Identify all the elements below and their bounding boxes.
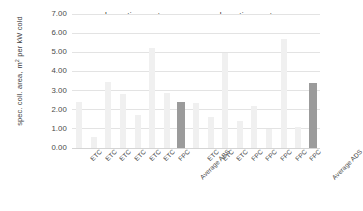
bar [208, 117, 214, 148]
x-axis-tick-label: ETC [235, 148, 249, 162]
bar-slot [247, 14, 262, 148]
x-axis-tick-label: FPC [308, 148, 322, 162]
bar-slot [291, 14, 306, 148]
x-axis-tick-label: FPC [250, 148, 264, 162]
bar-slot [145, 14, 160, 148]
bar-slot [72, 14, 87, 148]
y-axis-tick-label: 6.00 [33, 29, 67, 37]
y-axis-title-line2: m2 per kW cold [15, 16, 24, 68]
bar-average [309, 83, 317, 148]
bar-slot [203, 14, 218, 148]
x-axis-tick-label: FPC [293, 148, 307, 162]
bar-slot [306, 14, 321, 148]
bar-series [72, 14, 320, 148]
bar-slot [262, 14, 277, 148]
x-axis-tick-label: FPC [264, 148, 278, 162]
bar-average [177, 102, 185, 148]
x-axis-tick-label: ETC [148, 148, 162, 162]
y-axis-tick-label: 5.00 [33, 48, 67, 56]
y-axis-tick-label: 1.00 [33, 125, 67, 133]
bar-slot [174, 14, 189, 148]
bar [149, 48, 155, 148]
y-axis-title-superscript: 2 [13, 59, 19, 62]
bar [237, 121, 243, 148]
bar [91, 137, 97, 148]
y-axis-tick-label: 0.00 [33, 144, 67, 152]
bar [222, 53, 228, 148]
y-axis-tick-label: 2.00 [33, 106, 67, 114]
y-axis-tick-label: 4.00 [33, 67, 67, 75]
x-axis-tick-label: ETC [118, 148, 132, 162]
bar [193, 103, 199, 148]
x-axis-tick-label: FPC [177, 148, 191, 162]
bar [135, 115, 141, 149]
bar-slot [160, 14, 175, 148]
y-axis-title-unit: m [15, 62, 24, 68]
bar [76, 102, 82, 148]
plot-area [72, 14, 320, 148]
y-axis-title-line1: spec. coll. area, [15, 72, 24, 126]
bar [251, 106, 257, 148]
bar-slot [87, 14, 102, 148]
bar [120, 94, 126, 148]
y-axis-tick-label: 3.00 [33, 87, 67, 95]
bar-slot [116, 14, 131, 148]
x-axis-tick-label: ETC [104, 148, 118, 162]
y-axis-tick-label: 7.00 [33, 10, 67, 18]
bar-slot [233, 14, 248, 148]
bar-slot [218, 14, 233, 148]
bar [295, 127, 301, 148]
bar-slot [276, 14, 291, 148]
bar [281, 39, 287, 148]
bar-slot [189, 14, 204, 148]
bar-slot [101, 14, 116, 148]
bar [164, 93, 170, 148]
x-axis-tick-label: ETC [89, 148, 103, 162]
x-axis-tick-label: ETC [162, 148, 176, 162]
bar [266, 129, 272, 148]
x-axis-tick-label: ETC [133, 148, 147, 162]
x-axis-ticks: ETCETCETCETCETCETCFPCAverage ABSETCETCET… [72, 148, 320, 211]
x-axis-tick-label: Average ADS [330, 148, 363, 181]
bar-slot [130, 14, 145, 148]
bar [105, 82, 111, 148]
y-axis-title-unit-suffix: per kW cold [15, 16, 24, 59]
x-axis-tick-label: FPC [279, 148, 293, 162]
